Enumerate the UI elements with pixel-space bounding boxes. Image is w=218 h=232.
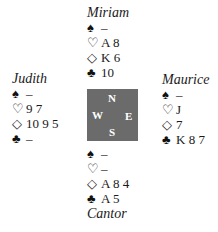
compass-west-label: W (92, 110, 103, 121)
north-hearts-cards: A 8 (101, 35, 119, 50)
club-icon: ♣ (12, 131, 25, 146)
compass-south-label: S (109, 127, 115, 138)
south-spades-cards: – (101, 146, 108, 161)
south-diamonds: ◇A 8 4 (87, 176, 129, 191)
north-spades-cards: – (101, 20, 108, 35)
west-clubs: ♣– (12, 131, 59, 146)
north-hand: Miriam ♠– ♡A 8 ◇K 6 ♣10 (87, 5, 129, 80)
compass-east-label: E (125, 111, 132, 122)
club-icon: ♣ (87, 65, 100, 80)
diamond-icon: ◇ (87, 50, 100, 65)
south-clubs-cards: A 5 (101, 191, 119, 206)
diamond-icon: ◇ (12, 116, 25, 131)
east-hearts-cards: J (176, 102, 181, 117)
south-spades: ♠– (87, 146, 129, 161)
east-diamonds-cards: 7 (176, 117, 183, 132)
diamond-icon: ◇ (162, 117, 175, 132)
west-spades-cards: – (26, 86, 33, 101)
south-hearts: ♡– (87, 161, 129, 176)
east-player-name: Maurice (162, 72, 209, 87)
south-clubs: ♣A 5 (87, 191, 129, 206)
club-icon: ♣ (87, 191, 100, 206)
spade-icon: ♠ (87, 146, 100, 161)
north-clubs: ♣10 (87, 65, 129, 80)
west-spades: ♠– (12, 86, 59, 101)
west-player-name: Judith (12, 71, 59, 86)
compass-table: N W E S (87, 89, 138, 141)
heart-icon: ♡ (87, 35, 100, 50)
south-player-name: Cantor (87, 206, 129, 221)
west-hearts: ♡9 7 (12, 101, 59, 116)
west-hand: Judith ♠– ♡9 7 ◇10 9 5 ♣– (12, 71, 59, 146)
north-diamonds-cards: K 6 (101, 50, 120, 65)
east-clubs: ♣K 8 7 (162, 132, 209, 147)
diamond-icon: ◇ (87, 176, 100, 191)
north-spades: ♠– (87, 20, 129, 35)
heart-icon: ♡ (87, 161, 100, 176)
south-hearts-cards: – (101, 161, 108, 176)
east-hearts: ♡J (162, 102, 209, 117)
north-diamonds: ◇K 6 (87, 50, 129, 65)
north-player-name: Miriam (87, 5, 129, 20)
south-hand: ♠– ♡– ◇A 8 4 ♣A 5 Cantor (87, 146, 129, 221)
club-icon: ♣ (162, 132, 175, 147)
south-diamonds-cards: A 8 4 (101, 176, 129, 191)
east-hand: Maurice ♠– ♡J ◇7 ♣K 8 7 (162, 72, 209, 147)
spade-icon: ♠ (87, 20, 100, 35)
west-hearts-cards: 9 7 (26, 101, 42, 116)
north-clubs-cards: 10 (101, 65, 114, 80)
east-clubs-cards: K 8 7 (176, 132, 205, 147)
compass-north-label: N (108, 93, 116, 104)
heart-icon: ♡ (12, 101, 25, 116)
east-spades: ♠– (162, 87, 209, 102)
heart-icon: ♡ (162, 102, 175, 117)
spade-icon: ♠ (12, 86, 25, 101)
east-diamonds: ◇7 (162, 117, 209, 132)
west-diamonds: ◇10 9 5 (12, 116, 59, 131)
west-diamonds-cards: 10 9 5 (26, 116, 59, 131)
north-hearts: ♡A 8 (87, 35, 129, 50)
east-spades-cards: – (176, 87, 183, 102)
west-clubs-cards: – (26, 131, 33, 146)
spade-icon: ♠ (162, 87, 175, 102)
